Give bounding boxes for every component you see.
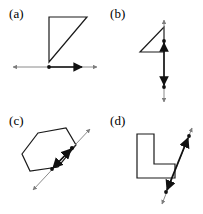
axis-marked-point [50, 167, 54, 171]
triangle-shape [49, 17, 87, 62]
axis-thick-segment [53, 149, 71, 168]
panel-label-a: (a) [9, 7, 24, 20]
axis-marked-point [162, 39, 166, 43]
hexagon-shape [22, 128, 76, 171]
panel-label-b: (b) [110, 7, 125, 20]
panel-c: (c) [0, 107, 101, 214]
axis-marked-point [47, 65, 51, 69]
panel-a: (a) [0, 0, 101, 107]
l-shape-polygon [137, 134, 175, 178]
panel-label-c: (c) [9, 114, 24, 127]
axis-marked-point [164, 190, 168, 194]
panel-d: (d) [101, 107, 202, 214]
panel-label-d: (d) [110, 114, 125, 127]
triangle-shape [140, 27, 164, 52]
panel-b: (b) [101, 0, 202, 107]
axis-marked-point [162, 85, 166, 89]
axis-marked-point [187, 134, 191, 138]
figure-root: (a) (b) [0, 0, 203, 214]
axis-marked-point [70, 146, 74, 150]
